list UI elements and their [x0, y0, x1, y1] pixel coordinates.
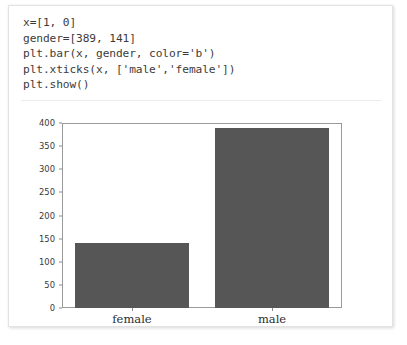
y-tick-mark [59, 238, 62, 239]
code-line: plt.show() [23, 77, 392, 93]
matplotlib-figure: 050100150200250300350400femalemale [9, 106, 394, 327]
code-line: gender=[389, 141] [23, 31, 392, 47]
y-tick-label: 350 [39, 141, 55, 151]
code-line: x=[1, 0] [23, 15, 392, 31]
bar-series [62, 123, 342, 308]
code-line: plt.bar(x, gender, color='b') [23, 46, 392, 62]
y-tick-mark [59, 215, 62, 216]
y-tick-label: 250 [39, 187, 55, 197]
cell-divider [21, 100, 381, 101]
y-tick-mark [59, 308, 62, 309]
y-tick-mark [59, 261, 62, 262]
y-tick-mark [59, 146, 62, 147]
y-tick-label: 0 [50, 303, 55, 313]
code-block[interactable]: x=[1, 0] gender=[389, 141] plt.bar(x, ge… [9, 6, 392, 99]
y-tick-label: 300 [39, 164, 55, 174]
x-tick-label: female [112, 312, 151, 326]
y-tick-label: 100 [39, 257, 55, 267]
y-tick-label: 400 [39, 118, 55, 128]
notebook-cell: x=[1, 0] gender=[389, 141] plt.bar(x, ge… [8, 5, 393, 327]
y-tick-mark [59, 123, 62, 124]
y-tick-label: 200 [39, 211, 55, 221]
x-tick-label: male [258, 312, 286, 326]
y-tick-label: 50 [44, 280, 55, 290]
y-tick-mark [59, 192, 62, 193]
bar [75, 243, 190, 308]
x-tick-mark [272, 308, 273, 311]
x-tick-mark [132, 308, 133, 311]
y-tick-mark [59, 169, 62, 170]
bar [215, 128, 330, 308]
y-tick-label: 150 [39, 234, 55, 244]
code-line: plt.xticks(x, ['male','female']) [23, 62, 392, 78]
y-tick-mark [59, 284, 62, 285]
